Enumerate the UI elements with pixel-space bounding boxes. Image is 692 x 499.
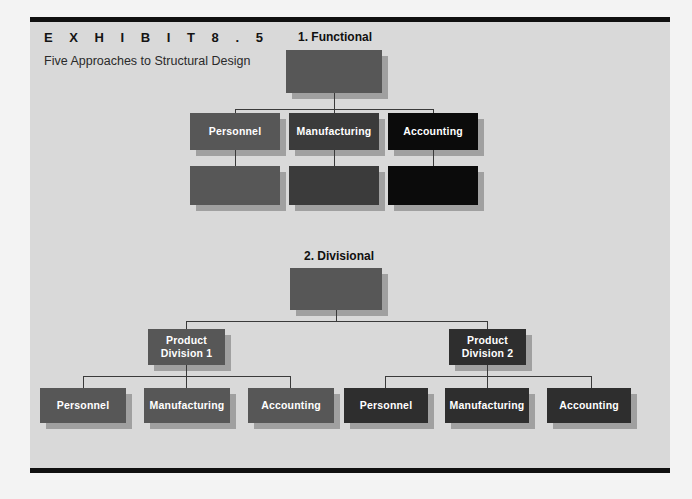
division-2-label-line2: Division 2	[462, 347, 514, 359]
connector-division-1-personnel-drop	[83, 376, 84, 388]
functional-node-personnel-sub[interactable]	[190, 166, 280, 205]
divisional-node-product-division-2[interactable]: Product Division 2	[449, 329, 526, 365]
division-2-node-personnel[interactable]: Personnel	[344, 388, 428, 423]
chart-title-divisional: 2. Divisional	[290, 249, 388, 263]
connector-divisional-root-stem	[336, 310, 337, 321]
connector-division-1-accounting-drop	[290, 376, 291, 388]
division-1-label-line2: Division 1	[161, 347, 213, 359]
connector-divisional-bus	[186, 321, 487, 322]
connector-functional-manufacturing-stem	[334, 150, 335, 166]
functional-node-accounting[interactable]: Accounting	[388, 113, 478, 150]
connector-division-2-accounting-drop	[591, 376, 592, 388]
connector-functional-root-stem	[334, 93, 335, 109]
functional-node-manufacturing-sub[interactable]	[289, 166, 379, 205]
division-1-node-manufacturing[interactable]: Manufacturing	[144, 388, 230, 423]
exhibit-subtitle: Five Approaches to Structural Design	[44, 54, 250, 68]
functional-node-personnel[interactable]: Personnel	[190, 113, 280, 150]
connector-functional-accounting-stem	[433, 150, 434, 166]
functional-node-manufacturing[interactable]: Manufacturing	[289, 113, 379, 150]
functional-node-accounting-sub[interactable]	[388, 166, 478, 205]
connector-division-1-manufacturing-drop	[186, 376, 187, 388]
chart-title-functional: 1. Functional	[286, 30, 384, 44]
connector-division-2-bus	[385, 376, 592, 377]
exhibit-number-label: E X H I B I T 8 . 5	[44, 30, 269, 45]
connector-division-2-personnel-drop	[385, 376, 386, 388]
divisional-root-node[interactable]	[290, 268, 382, 310]
division-1-node-personnel[interactable]: Personnel	[40, 388, 126, 423]
division-2-label-line1: Product	[467, 334, 508, 346]
panel-top-rule	[30, 17, 670, 22]
division-2-node-manufacturing[interactable]: Manufacturing	[445, 388, 529, 423]
division-1-label-line1: Product	[166, 334, 207, 346]
connector-division-1-stem	[186, 365, 187, 376]
connector-division-2-stem	[487, 365, 488, 376]
functional-root-node[interactable]	[286, 50, 382, 93]
division-1-node-accounting[interactable]: Accounting	[248, 388, 334, 423]
divisional-node-product-division-1[interactable]: Product Division 1	[148, 329, 225, 365]
connector-functional-personnel-stem	[235, 150, 236, 166]
exhibit-page: E X H I B I T 8 . 5 Five Approaches to S…	[0, 0, 692, 499]
panel-bottom-rule	[30, 468, 670, 473]
connector-division-2-manufacturing-drop	[487, 376, 488, 388]
division-2-node-accounting[interactable]: Accounting	[547, 388, 631, 423]
